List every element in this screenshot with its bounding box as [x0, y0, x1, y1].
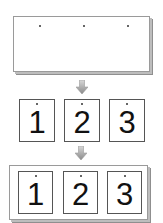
combined-page-card-2: 2 — [63, 171, 98, 214]
page-number: 3 — [118, 107, 135, 138]
down-arrow-icon — [75, 146, 87, 160]
wide-sheet — [13, 16, 150, 72]
punch-mark — [39, 25, 41, 27]
punch-mark — [36, 103, 38, 105]
page-number: 1 — [28, 107, 45, 138]
punch-mark — [126, 103, 128, 105]
page-card-2: 2 — [64, 99, 100, 142]
combined-page-card-1: 1 — [18, 171, 53, 214]
page-number: 1 — [27, 179, 44, 210]
punch-mark — [124, 175, 126, 177]
page-card-1: 1 — [19, 99, 55, 142]
punch-mark — [83, 25, 85, 27]
punch-mark — [127, 25, 129, 27]
page-number: 2 — [72, 179, 89, 210]
page-card-3: 3 — [109, 99, 145, 142]
punch-mark — [35, 175, 37, 177]
punch-mark — [81, 103, 83, 105]
page-number: 3 — [116, 179, 133, 210]
page-number: 2 — [73, 107, 90, 138]
combined-page-card-3: 3 — [107, 171, 142, 214]
punch-mark — [80, 175, 82, 177]
down-arrow-icon — [76, 80, 88, 94]
